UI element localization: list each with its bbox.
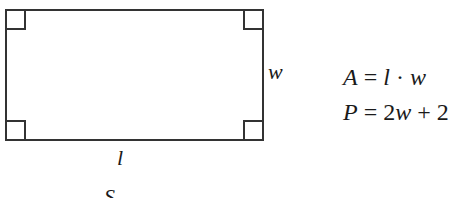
right-angle-marker-bottom-left <box>7 120 26 139</box>
width-variable: w <box>395 99 411 125</box>
right-angle-marker-top-right <box>243 11 262 30</box>
length-label: l <box>117 147 123 169</box>
equals-sign: = <box>358 64 384 90</box>
plus-term: + 2 <box>411 99 449 125</box>
rectangle-shape <box>5 9 264 141</box>
area-formula: A = l · w <box>343 65 426 89</box>
right-angle-marker-top-left <box>7 11 26 30</box>
perimeter-symbol: P <box>343 99 358 125</box>
caption-partial: S <box>104 186 115 198</box>
width-variable: w <box>410 64 426 90</box>
equals-sign: = <box>358 99 384 125</box>
length-variable: l <box>383 64 390 90</box>
multiply-dot: · <box>390 64 410 90</box>
perimeter-formula: P = 2w + 2 <box>343 100 449 124</box>
area-symbol: A <box>343 64 358 90</box>
width-label: w <box>268 61 283 83</box>
right-angle-marker-bottom-right <box>243 120 262 139</box>
coefficient: 2 <box>383 99 395 125</box>
